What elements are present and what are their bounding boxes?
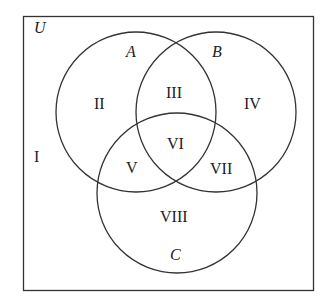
region-label-i: I bbox=[34, 148, 39, 165]
set-c-label: C bbox=[170, 246, 181, 263]
region-label-v: V bbox=[126, 159, 138, 176]
set-b-label: B bbox=[212, 43, 222, 60]
universe-label: U bbox=[34, 19, 47, 36]
region-label-iv: IV bbox=[244, 95, 261, 112]
region-label-iii: III bbox=[166, 84, 182, 101]
region-label-vi: VI bbox=[167, 135, 184, 152]
set-a-label: A bbox=[125, 43, 136, 60]
region-label-vii: VII bbox=[210, 160, 232, 177]
region-label-viii: VIII bbox=[160, 208, 188, 225]
venn-diagram: U A B C I II III IV V VI VII VIII bbox=[0, 0, 327, 304]
region-label-ii: II bbox=[94, 95, 105, 112]
